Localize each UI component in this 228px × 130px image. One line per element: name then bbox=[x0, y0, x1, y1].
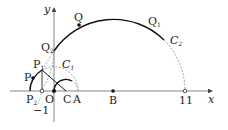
label-q: Q bbox=[74, 11, 83, 24]
label-c2: C2 bbox=[170, 34, 182, 47]
label-p1: P1 bbox=[33, 58, 44, 71]
label-b: B bbox=[109, 94, 117, 107]
point-p bbox=[31, 76, 35, 80]
label-p: P bbox=[24, 71, 32, 84]
arc-p-solid bbox=[30, 70, 42, 91]
point-b bbox=[111, 89, 115, 93]
geometry-diagram: y x Q Q1 Q2 C2 C1 P1 P P2 O C A B 11 −1 bbox=[0, 0, 228, 130]
label-y: y bbox=[43, 3, 51, 16]
arc-c2-dashed-right bbox=[164, 40, 185, 91]
label-minus-one: −1 bbox=[33, 104, 49, 117]
label-a: A bbox=[72, 93, 82, 106]
label-q1: Q1 bbox=[148, 15, 161, 28]
point-eleven bbox=[183, 89, 187, 93]
label-x: x bbox=[208, 93, 215, 106]
label-eleven: 11 bbox=[179, 94, 193, 107]
label-c: C bbox=[63, 93, 71, 106]
arc-small-solid bbox=[54, 79, 72, 91]
label-c1: C1 bbox=[62, 58, 74, 71]
point-minus-one bbox=[40, 89, 44, 93]
label-q2: Q2 bbox=[41, 41, 54, 54]
arc-small-dashed bbox=[54, 79, 78, 91]
